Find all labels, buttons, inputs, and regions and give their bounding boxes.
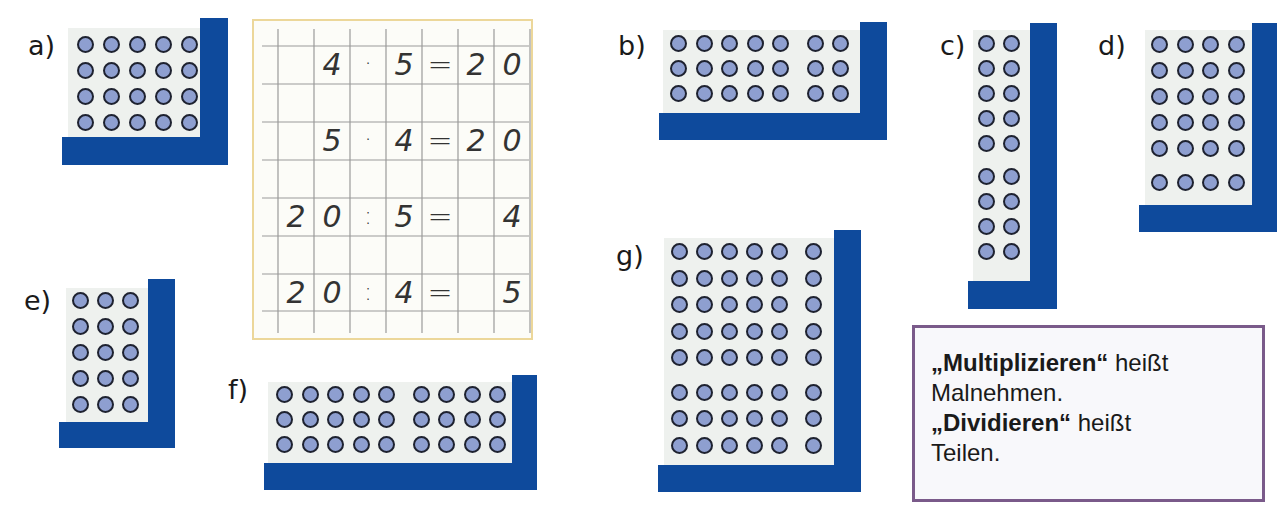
handwritten-digit: 0 [494, 123, 530, 158]
label-a: a) [28, 30, 55, 61]
counter-dot [805, 349, 822, 366]
counter-dot [832, 85, 849, 102]
counter-dot [747, 60, 764, 77]
counter-dot [746, 323, 763, 340]
cut-off-heading [0, 0, 1277, 6]
frame-horizontal-bar-f [264, 463, 537, 490]
counter-dot [97, 292, 114, 309]
counter-dot [1228, 140, 1245, 157]
counter-dot [122, 370, 139, 387]
handwritten-digit: 4 [494, 199, 530, 234]
frame-horizontal-bar-c [968, 281, 1057, 309]
term-dividieren: „Dividieren“ [931, 409, 1071, 436]
counter-dot [464, 436, 481, 453]
counter-dot [721, 35, 738, 52]
counter-dot [721, 296, 738, 313]
counter-dot [1151, 36, 1168, 53]
counter-dot [696, 296, 713, 313]
counter-dot [327, 386, 344, 403]
frame-horizontal-bar-d [1139, 205, 1277, 232]
frame-horizontal-bar-g [658, 465, 861, 492]
counter-dot [1151, 62, 1168, 79]
counter-dot [721, 60, 738, 77]
counter-dot [696, 85, 713, 102]
counter-dot [671, 243, 688, 260]
counter-dot [696, 60, 713, 77]
counter-dot [721, 270, 738, 287]
handwritten-digit: 2 [458, 47, 494, 82]
definition-multiply: „Multiplizieren“ heißt [931, 348, 1246, 378]
counter-dot [302, 436, 319, 453]
counter-dot [721, 323, 738, 340]
counter-dot [978, 218, 995, 235]
handwritten-digit: 0 [314, 275, 350, 310]
label-c: c) [940, 30, 965, 61]
counter-dot [378, 411, 395, 428]
counter-dot [721, 349, 738, 366]
counter-dot [97, 396, 114, 413]
counter-dot [181, 62, 198, 79]
counter-dot [747, 85, 764, 102]
term-multiplizieren: „Multiplizieren“ [931, 349, 1108, 376]
frame-vertical-bar-d [1252, 23, 1277, 232]
counter-dot [671, 384, 688, 401]
handwritten-digit: 5 [494, 275, 530, 310]
counter-dot [129, 36, 146, 53]
counter-dot [696, 243, 713, 260]
counter-dot [671, 323, 688, 340]
definition-divide: „Dividieren“ heißt [931, 408, 1246, 438]
counter-dot [72, 318, 89, 335]
definition-multiply-meaning: Malnehmen. [931, 378, 1246, 408]
handwritten-digit: · [350, 50, 386, 78]
counter-dot [1202, 88, 1219, 105]
counter-dot [1151, 140, 1168, 157]
counter-dot [807, 85, 824, 102]
counter-dot [489, 386, 506, 403]
counter-dot [671, 270, 688, 287]
counter-dot [438, 436, 455, 453]
counter-dot [721, 85, 738, 102]
counter-dot [155, 36, 172, 53]
counter-dot [103, 62, 120, 79]
handwritten-digit: 0 [314, 199, 350, 234]
counter-dot [1003, 60, 1020, 77]
counter-dot [1151, 174, 1168, 191]
counter-dot [978, 243, 995, 260]
counter-dot [489, 411, 506, 428]
counter-dot [155, 88, 172, 105]
counter-dot [747, 35, 764, 52]
counter-dot [1151, 114, 1168, 131]
counter-dot [1228, 62, 1245, 79]
counter-dot [378, 386, 395, 403]
handwritten-digit: 4 [386, 123, 422, 158]
counter-dot [696, 384, 713, 401]
counter-dot [276, 411, 293, 428]
counter-dot [721, 384, 738, 401]
counter-dot [97, 318, 114, 335]
counter-dot [1003, 110, 1020, 127]
counter-dot [978, 35, 995, 52]
handwritten-digit: 0 [494, 47, 530, 82]
counter-dot [72, 396, 89, 413]
counter-dot [978, 85, 995, 102]
counter-dot [696, 349, 713, 366]
counter-dot [805, 384, 822, 401]
counter-dot [746, 437, 763, 454]
counter-dot [670, 35, 687, 52]
label-g: g) [616, 240, 644, 271]
counter-dot [978, 168, 995, 185]
counter-dot [696, 270, 713, 287]
counter-dot [438, 386, 455, 403]
counter-dot [1151, 88, 1168, 105]
counter-dot [1177, 62, 1194, 79]
counter-dot [671, 296, 688, 313]
counter-dot [1202, 174, 1219, 191]
handwritten-digit: 5 [386, 199, 422, 234]
counter-dot [103, 36, 120, 53]
counter-dot [978, 110, 995, 127]
counter-dot [746, 296, 763, 313]
counter-dot [77, 88, 94, 105]
counter-dot [327, 436, 344, 453]
counter-dot [129, 62, 146, 79]
label-d: d) [1098, 30, 1126, 61]
